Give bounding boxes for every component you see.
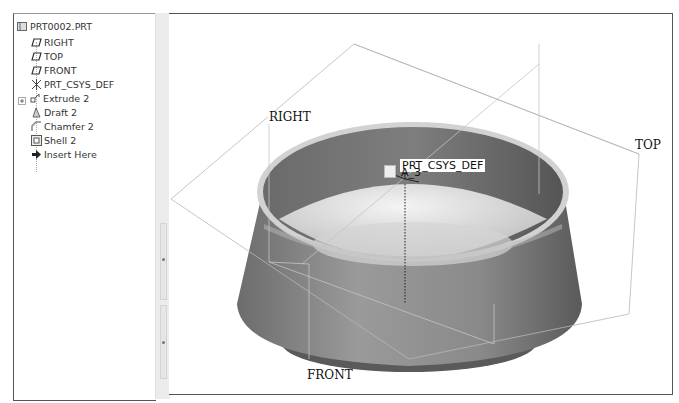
tree-item-label: Chamfer 2 [44, 120, 94, 133]
model-tree-panel: PRT0002.PRT RIGHT TOP FRONT PRT_CSYS_DEF… [13, 13, 156, 401]
panel-sash[interactable] [155, 13, 170, 399]
graphics-viewport[interactable]: RIGHT TOP FRONT PRT_CSYS_DEF A_3 [169, 13, 673, 395]
extrude-icon [30, 93, 41, 104]
tree-item-label: FRONT [44, 64, 76, 77]
sash-grip-dot [162, 258, 165, 261]
tree-root-label: PRT0002.PRT [30, 20, 92, 33]
tree-item-csys[interactable]: PRT_CSYS_DEF [31, 78, 114, 91]
tree-item-label: Shell 2 [44, 134, 76, 147]
insert-arrow-icon [31, 149, 42, 160]
tree-item-label: Draft 2 [44, 106, 77, 119]
datum-label-top[interactable]: TOP [634, 139, 662, 152]
tree-item-right[interactable]: RIGHT [31, 36, 74, 49]
datum-plane-icon [31, 51, 42, 62]
tree-item-insert-here[interactable]: Insert Here [31, 148, 97, 161]
sash-handle-upper[interactable] [160, 223, 167, 300]
tree-item-label: Extrude 2 [43, 92, 89, 105]
tree-item-top[interactable]: TOP [31, 50, 63, 63]
coordinate-system-icon [31, 79, 42, 90]
chamfer-icon [31, 121, 42, 132]
datum-label-right[interactable]: RIGHT [268, 111, 312, 124]
tree-item-extrude[interactable]: Extrude 2 [18, 92, 89, 105]
tree-item-chamfer[interactable]: Chamfer 2 [31, 120, 94, 133]
expand-icon[interactable] [18, 95, 26, 103]
tree-item-shell[interactable]: Shell 2 [31, 134, 76, 147]
tree-item-draft[interactable]: Draft 2 [31, 106, 77, 119]
datum-label-front[interactable]: FRONT [306, 369, 354, 382]
csys-marker-box [384, 165, 396, 178]
tree-item-front[interactable]: FRONT [31, 64, 76, 77]
tree-root-part[interactable]: PRT0002.PRT [17, 20, 92, 33]
draft-icon [31, 107, 42, 118]
datum-plane-icon [31, 37, 42, 48]
tree-item-label: TOP [44, 50, 63, 63]
tree-item-label: PRT_CSYS_DEF [44, 78, 114, 91]
axis-label[interactable]: A_3 [401, 167, 421, 179]
tree-item-label: Insert Here [44, 148, 97, 161]
tree-item-label: RIGHT [44, 36, 74, 49]
sash-grip-dot [162, 341, 165, 344]
datum-plane-icon [31, 65, 42, 76]
model-render [169, 14, 672, 394]
shell-icon [31, 135, 42, 146]
part-icon [17, 21, 28, 32]
